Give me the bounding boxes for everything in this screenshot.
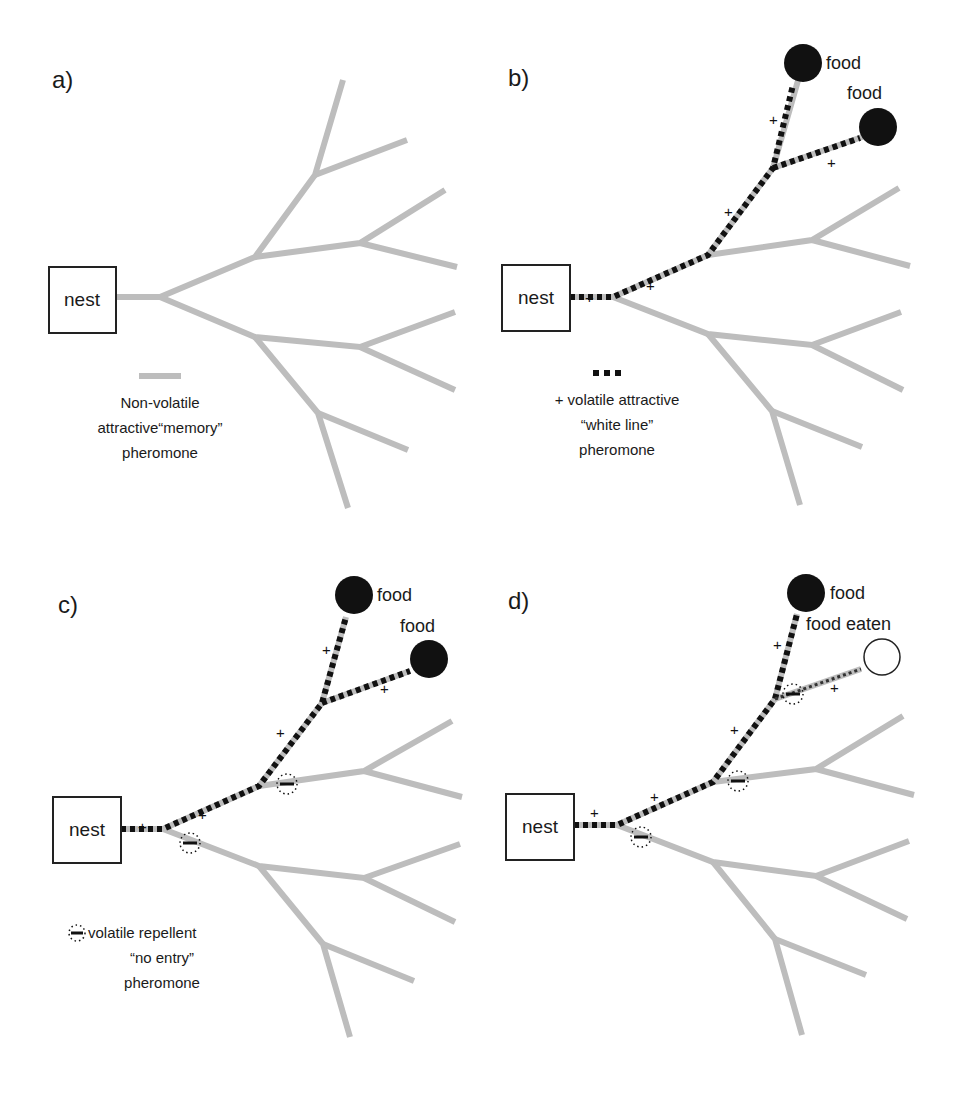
white-line-trail: [574, 614, 861, 825]
svg-text:+: +: [198, 806, 207, 823]
food-source-1: food: [784, 44, 861, 82]
svg-text:food: food: [826, 53, 861, 73]
repellent-markers: [631, 684, 803, 847]
food-source-1: food: [787, 574, 865, 612]
nest-box: nest: [53, 797, 121, 863]
svg-text:“white line”: “white line”: [581, 416, 654, 433]
food-filled-icon: [784, 44, 822, 82]
svg-text:nest: nest: [518, 287, 555, 308]
no-entry-marker-icon: [277, 774, 297, 794]
svg-text:+: +: [646, 277, 655, 294]
svg-text:nest: nest: [69, 819, 106, 840]
svg-text:“no entry”: “no entry”: [130, 949, 194, 966]
food-filled-icon: [787, 574, 825, 612]
legend-white-line-pheromone: + volatile attractive “white line” phero…: [555, 370, 680, 458]
svg-text:+: +: [730, 721, 739, 738]
svg-text:+: +: [773, 636, 782, 653]
panel-d: d) nest food food eaten +: [506, 574, 914, 1035]
food-source-2-eaten: food eaten: [806, 614, 900, 675]
svg-text:food eaten: food eaten: [806, 614, 891, 634]
nest-box: nest: [506, 794, 574, 860]
branch-network: [570, 63, 910, 505]
svg-text:food: food: [400, 616, 435, 636]
panel-a: a) nest Non-volatile attractive“memory” …: [49, 66, 457, 508]
svg-text:+: +: [585, 289, 594, 306]
svg-text:+: +: [322, 641, 331, 658]
white-line-trail: [570, 85, 860, 297]
svg-text:+: +: [590, 804, 599, 821]
panel-label-a: a): [52, 66, 73, 93]
white-line-swatch: [593, 370, 621, 376]
food-source-1: food: [335, 576, 412, 614]
svg-text:volatile repellent: volatile repellent: [88, 924, 197, 941]
no-entry-marker-icon: [728, 771, 748, 791]
svg-text:nest: nest: [522, 816, 559, 837]
panel-label-d: d): [508, 587, 529, 614]
svg-text:pheromone: pheromone: [122, 444, 198, 461]
svg-text:+ volatile attractive: + volatile attractive: [555, 391, 680, 408]
svg-text:+: +: [138, 818, 147, 835]
svg-text:+: +: [380, 680, 389, 697]
legend-no-entry-pheromone: volatile repellent “no entry” pheromone: [69, 924, 200, 991]
white-line-trail: [121, 617, 410, 829]
svg-text:+: +: [724, 203, 733, 220]
svg-text:attractive“memory”: attractive“memory”: [97, 419, 222, 436]
svg-text:food: food: [847, 83, 882, 103]
panel-label-b: b): [508, 64, 529, 91]
svg-text:+: +: [769, 111, 778, 128]
food-filled-icon: [335, 576, 373, 614]
panel-label-c: c): [58, 591, 78, 618]
svg-text:+: +: [830, 679, 839, 696]
nest-box: nest: [502, 265, 570, 331]
svg-text:food: food: [377, 585, 412, 605]
plus-markers: + + + + +: [585, 111, 836, 306]
food-filled-icon: [859, 108, 897, 146]
plus-markers: + + + + +: [590, 636, 839, 821]
svg-text:+: +: [276, 724, 285, 741]
nest-box: nest: [49, 267, 116, 333]
legend-memory-pheromone: Non-volatile attractive“memory” pheromon…: [97, 376, 222, 461]
svg-text:food: food: [830, 583, 865, 603]
food-filled-icon: [410, 640, 448, 678]
panel-b: b) nest food food + +: [502, 44, 910, 505]
panel-c: c) nest food food + +: [53, 576, 462, 1037]
svg-text:+: +: [650, 788, 659, 805]
svg-text:+: +: [827, 154, 836, 171]
svg-text:pheromone: pheromone: [124, 974, 200, 991]
svg-text:pheromone: pheromone: [579, 441, 655, 458]
no-entry-marker-icon: [69, 925, 85, 941]
svg-text:Non-volatile: Non-volatile: [120, 394, 199, 411]
food-source-2: food: [400, 616, 448, 678]
plus-markers: + + + + +: [138, 641, 389, 835]
food-empty-icon: [864, 639, 900, 675]
no-entry-marker-icon: [783, 684, 803, 704]
pheromone-trail-figure: a) nest Non-volatile attractive“memory” …: [0, 0, 966, 1100]
branch-network: [574, 614, 914, 1035]
svg-text:nest: nest: [64, 289, 101, 310]
